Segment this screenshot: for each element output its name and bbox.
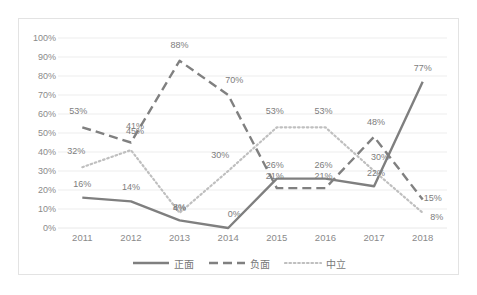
legend-item-正面[interactable]: 正面: [132, 256, 194, 271]
data-label: 22%: [367, 168, 385, 178]
data-label: 26%: [266, 160, 284, 170]
data-label: 70%: [225, 75, 243, 85]
data-label: 14%: [122, 182, 140, 192]
data-label: 30%: [371, 152, 389, 162]
data-label: 77%: [414, 63, 432, 73]
legend-item-中立[interactable]: 中立: [284, 256, 346, 271]
data-label: 21%: [314, 171, 332, 181]
legend-key-icon: [208, 258, 246, 268]
data-label: 16%: [73, 179, 91, 189]
legend-label: 负面: [250, 256, 270, 271]
legend-label: 正面: [174, 256, 194, 271]
data-point-labels: 16%14%4%0%26%26%22%77%53%45%88%70%21%21%…: [0, 0, 477, 295]
data-label: 26%: [314, 160, 332, 170]
data-label: 0%: [228, 209, 241, 219]
data-label: 32%: [67, 146, 85, 156]
data-label: 88%: [171, 40, 189, 50]
data-label: 48%: [367, 117, 385, 127]
data-label: 8%: [173, 202, 186, 212]
data-label: 8%: [430, 212, 443, 222]
legend-key-icon: [132, 258, 170, 268]
chart-legend: 正面负面中立: [0, 252, 477, 274]
legend-label: 中立: [326, 256, 346, 271]
data-label: 53%: [69, 106, 87, 116]
legend-item-负面[interactable]: 负面: [208, 256, 270, 271]
data-label: 30%: [211, 150, 229, 160]
data-label: 53%: [314, 106, 332, 116]
data-label: 53%: [266, 106, 284, 116]
data-label: 41%: [126, 121, 144, 131]
data-label: 15%: [424, 193, 442, 203]
legend-key-icon: [284, 258, 322, 268]
data-label: 21%: [266, 171, 284, 181]
